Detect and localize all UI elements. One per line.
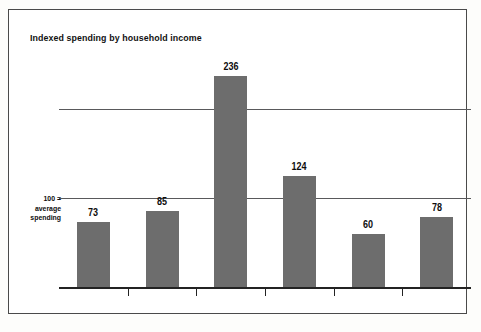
chart-frame: Indexed spending by household income 100… [8,9,467,314]
axis-tick [128,289,129,296]
axis-tick [265,289,266,296]
plot-area: 73852361246078 <$20,000$20,000–$29,999$3… [59,55,471,288]
bar-value-label: 124 [277,161,322,172]
axis-tick [334,289,335,296]
bar [214,76,247,287]
gridline-200 [59,109,471,110]
bar-value-label: 85 [140,196,185,207]
bar [352,234,385,288]
gridline-100 [59,198,471,199]
axis-annotation-line-1: 100 = [24,194,61,204]
bar-value-label: 236 [208,61,253,72]
bar [146,211,179,287]
bar-value-label: 78 [414,202,459,213]
bar-value-label: 60 [346,219,391,230]
bar-value-label: 73 [71,207,116,218]
axis-annotation-line-3: spending [24,213,61,223]
chart-figure: Indexed spending by household income 100… [0,0,481,332]
chart-title: Indexed spending by household income [30,32,202,43]
axis-annotation: 100 = average spending [24,194,61,223]
axis-annotation-line-2: average [24,204,61,214]
axis-tick [402,289,403,296]
axis-tick [196,289,197,296]
bar [77,222,110,287]
bar [420,217,453,287]
bar [283,176,316,287]
